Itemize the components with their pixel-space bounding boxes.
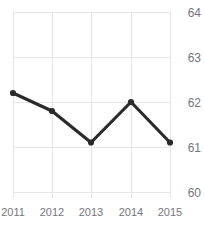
x-axis-tick-2012: 2012 <box>30 206 74 218</box>
data-point-2011 <box>10 90 16 96</box>
data-point-2015 <box>167 139 173 145</box>
x-axis-tick-2013: 2013 <box>69 206 113 218</box>
data-point-2012 <box>49 108 55 114</box>
y-axis-tick-61: 61 <box>175 141 201 155</box>
y-axis-tick-62: 62 <box>175 96 201 110</box>
data-point-2013 <box>88 139 94 145</box>
data-point-2014 <box>128 99 134 105</box>
y-axis-tick-64: 64 <box>175 6 201 20</box>
y-axis-tick-63: 63 <box>175 51 201 65</box>
plot-area <box>0 0 204 227</box>
x-axis-tick-2014: 2014 <box>109 206 153 218</box>
x-axis-tick-2015: 2015 <box>148 206 192 218</box>
line-chart: Freedom Trend 64 63 62 61 60 2011 2012 2… <box>0 0 204 227</box>
y-axis-tick-60: 60 <box>175 186 201 200</box>
